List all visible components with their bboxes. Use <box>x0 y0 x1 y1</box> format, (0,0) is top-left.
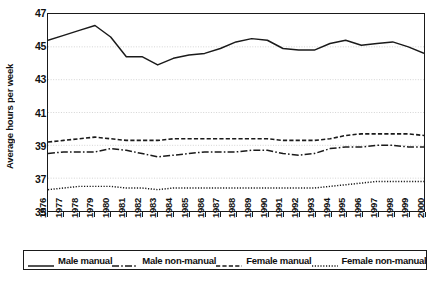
x-axis-tick-labels: 1976197719781979198019811982198319841985… <box>47 218 425 248</box>
y-axis-tick-label: 43 <box>20 73 46 85</box>
y-axis-title: Average hours per week <box>2 36 18 196</box>
legend-swatch <box>216 256 242 264</box>
y-axis-tick-label: 39 <box>20 140 46 152</box>
legend-item: Male non-manual <box>112 255 216 266</box>
x-axis-tick-label: 1995 <box>336 198 347 218</box>
x-axis-tick-label: 1981 <box>115 198 126 218</box>
chart-legend: Male manualMale non-manualFemale manualF… <box>23 250 427 270</box>
x-axis-tick-label: 1979 <box>84 198 95 218</box>
legend-swatch <box>112 256 138 264</box>
x-axis-tick-label: 1977 <box>52 198 63 218</box>
y-axis-tick-labels: 35373941434547 <box>20 6 46 220</box>
x-axis-tick-label: 1984 <box>163 198 174 218</box>
series-line <box>48 134 424 142</box>
legend-label: Female manual <box>246 255 311 266</box>
legend-label: Male manual <box>58 255 112 266</box>
y-axis-tick-label: 41 <box>20 107 46 119</box>
figure: Average hours per week 35373941434547 19… <box>0 0 444 290</box>
x-axis-tick-label: 1993 <box>304 198 315 218</box>
legend-item: Female non-manual <box>312 255 427 266</box>
legend-item: Female manual <box>216 255 311 266</box>
legend-label: Female non-manual <box>342 255 427 266</box>
legend-item: Male manual <box>28 255 112 266</box>
chart-plot-container: Average hours per week 35373941434547 19… <box>0 0 444 246</box>
x-axis-tick-label: 1985 <box>178 198 189 218</box>
y-axis-tick-label: 37 <box>20 173 46 185</box>
x-axis-tick-label: 1988 <box>226 198 237 218</box>
x-axis-tick-label: 1994 <box>320 198 331 218</box>
x-axis-tick-label: 1989 <box>241 198 252 218</box>
x-axis-tick-label: 2000 <box>415 198 426 218</box>
series-line <box>48 145 424 156</box>
legend-swatch <box>28 256 54 264</box>
x-axis-tick-label: 1986 <box>194 198 205 218</box>
x-axis-tick-label: 1997 <box>367 198 378 218</box>
series-line <box>48 25 424 64</box>
y-axis-tick-label: 45 <box>20 40 46 52</box>
x-axis-tick-label: 1976 <box>37 198 48 218</box>
x-axis-tick-label: 1978 <box>68 198 79 218</box>
chart-lines <box>48 14 424 211</box>
x-axis-tick-label: 1980 <box>100 198 111 218</box>
x-axis-tick-label: 1998 <box>383 198 394 218</box>
x-axis-tick-label: 1983 <box>147 198 158 218</box>
x-axis-tick-label: 1996 <box>352 198 363 218</box>
legend-swatch <box>312 256 338 264</box>
y-axis-tick-label: 47 <box>20 7 46 19</box>
series-line <box>48 181 424 189</box>
x-axis-tick-label: 1999 <box>399 198 410 218</box>
x-axis-tick-label: 1992 <box>289 198 300 218</box>
plot-area <box>47 13 425 212</box>
x-axis-tick-label: 1982 <box>131 198 142 218</box>
x-axis-tick-label: 1990 <box>257 198 268 218</box>
x-axis-tick-label: 1991 <box>273 198 284 218</box>
x-axis-tick-label: 1987 <box>210 198 221 218</box>
legend-label: Male non-manual <box>142 255 216 266</box>
